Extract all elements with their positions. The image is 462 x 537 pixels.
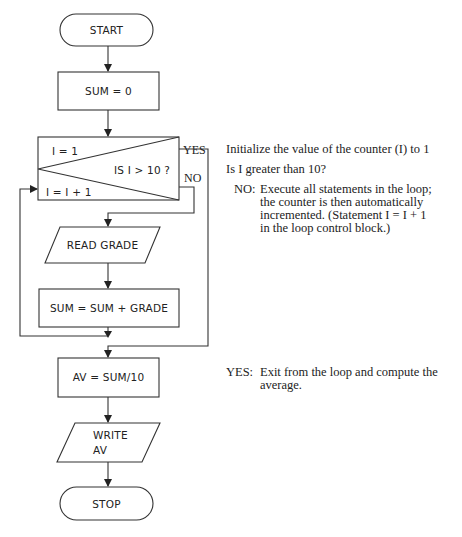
loop-junction-arrow-icon <box>104 331 112 338</box>
average-box: AV = SUM/10 <box>58 358 159 397</box>
write-label-line1: WRITE <box>93 429 128 441</box>
start-label: START <box>90 24 124 36</box>
annotation-no-tag: NO: <box>234 183 256 196</box>
init-sum-box: SUM = 0 <box>58 72 159 110</box>
loop-increment-label: I = I + 1 <box>46 186 92 198</box>
accumulate-box: SUM = SUM + GRADE <box>39 289 179 327</box>
read-grade-io: READ GRADE <box>45 227 160 263</box>
yes-branch-label: YES <box>183 143 206 157</box>
no-branch-label: NO <box>184 171 202 185</box>
write-label-line2: AV <box>93 444 108 456</box>
write-av-io: WRITE AV <box>57 423 160 462</box>
loop-test-label: IS I > 10 ? <box>114 164 170 176</box>
annotation-no-line: in the loop control block.) <box>260 222 432 235</box>
annotation-test: Is I greater than 10? <box>226 163 326 176</box>
flowchart: START SUM = 0 I = 1 IS I > 10 ? I = I + … <box>0 0 462 537</box>
annotation-yes-tag: YES: <box>226 366 253 379</box>
init-sum-label: SUM = 0 <box>85 85 132 97</box>
average-label: AV = SUM/10 <box>73 371 145 383</box>
annotation-yes-body: Exit from the loop and compute the avera… <box>260 366 438 392</box>
stop-terminal: STOP <box>60 487 153 520</box>
annotation-yes-line: average. <box>260 379 438 392</box>
stop-label: STOP <box>92 498 120 510</box>
loop-init-label: I = 1 <box>52 145 78 157</box>
read-grade-label: READ GRADE <box>67 239 138 251</box>
annotation-init: Initialize the value of the counter (I) … <box>226 143 429 156</box>
start-terminal: START <box>60 14 153 46</box>
annotation-no-body: Execute all statements in the loop; the … <box>260 183 432 235</box>
accumulate-label: SUM = SUM + GRADE <box>50 302 168 314</box>
loop-control-block: I = 1 IS I > 10 ? I = I + 1 <box>38 137 179 200</box>
